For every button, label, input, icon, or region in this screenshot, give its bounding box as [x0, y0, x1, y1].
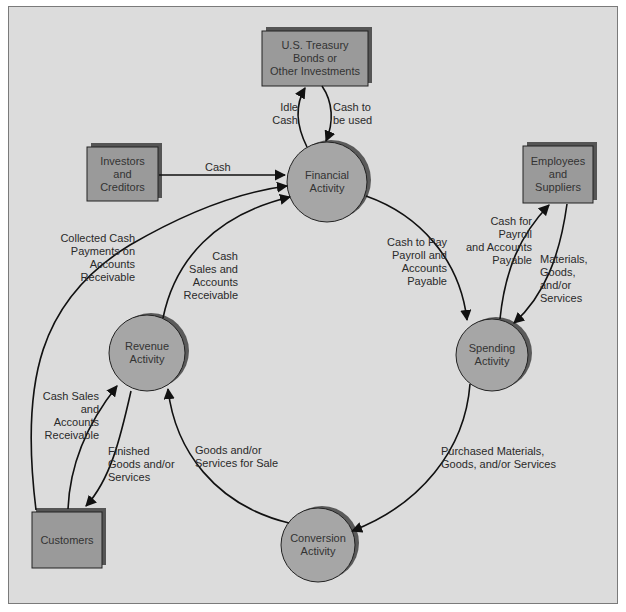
node-customers-label: Customers: [32, 512, 102, 568]
edge-label-cash-sales-rev: Cash Sales and Accounts Receivable: [36, 390, 99, 442]
edge-label-materials: Materials, Goods, and/or Services: [540, 253, 588, 305]
edge-label-cash-sales-fin: Cash Sales and Accounts Receivable: [175, 250, 238, 302]
edge-label-idle-cash: Idle Cash: [268, 101, 298, 127]
node-employees-label: Employees and Suppliers: [523, 146, 593, 203]
node-revenue-label: Revenue Activity: [109, 315, 185, 391]
node-investors-label: Investors and Creditors: [87, 147, 158, 201]
edge-label-cash-to-pay: Cash to Pay Payroll and Accounts Payable: [355, 236, 447, 288]
edge-idle-cash: [298, 88, 307, 147]
edge-label-investor-cash: Cash: [205, 161, 231, 174]
node-spending-label: Spending Activity: [456, 319, 528, 391]
edge-label-cash-for-payroll: Cash for Payroll and Accounts Payable: [452, 215, 532, 267]
edge-cash-to-be-used: [322, 86, 331, 141]
edge-label-purchased: Purchased Materials, Goods, and/or Servi…: [441, 445, 556, 471]
node-conversion-label: Conversion Activity: [281, 508, 355, 582]
edge-label-cash-to-be-used: Cash to be used: [333, 101, 372, 127]
node-financial-label: Financial Activity: [287, 142, 367, 222]
node-treasury-label: U.S. Treasury Bonds or Other Investments: [262, 31, 368, 86]
edge-label-finished-goods: Finished Goods and/or Services: [108, 445, 175, 484]
edge-label-goods-for-sale: Goods and/or Services for Sale: [195, 444, 278, 470]
edge-label-collected-cash: Collected Cash Payments on Accounts Rece…: [30, 232, 135, 284]
